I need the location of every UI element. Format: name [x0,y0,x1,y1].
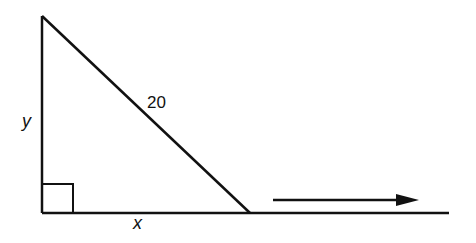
hypotenuse-label: 20 [147,93,166,112]
right-angle-marker [42,184,73,213]
vertical-leg-label: y [20,111,32,131]
diagram-canvas: 20 y x [0,0,476,243]
horizontal-leg-label: x [132,213,143,233]
arrow-right-icon [396,194,419,206]
